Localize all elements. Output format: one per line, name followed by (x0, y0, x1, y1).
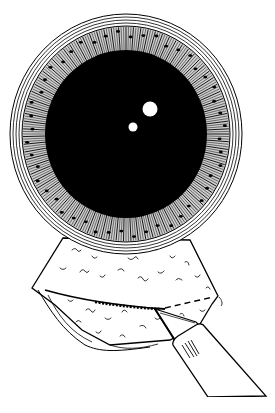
highlight-small (129, 123, 138, 132)
eye-surgery-illustration: Eye with iris, pupil and surgical incisi… (0, 0, 275, 413)
pupil (45, 50, 207, 218)
eye (10, 14, 242, 254)
highlight-large (143, 102, 158, 117)
